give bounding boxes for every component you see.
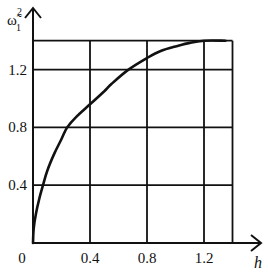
x-tick-label: 1.2	[195, 250, 214, 266]
x-tick-label: 0.4	[81, 250, 100, 266]
x-axis-label: h	[254, 254, 262, 271]
y-tick-label: 1.2	[8, 62, 27, 78]
x-tick-label: 0.8	[138, 250, 157, 266]
y-axis-label: ω̃ 1 2	[7, 6, 22, 33]
tick-labels: 0.40.81.20.40.81.2	[8, 62, 213, 266]
axes	[25, 8, 261, 251]
y-label-sup: 2	[17, 6, 22, 17]
y-tick-label: 0.4	[8, 177, 27, 193]
y-tick-label: 0.8	[8, 119, 27, 135]
origin-label: 0	[18, 250, 26, 266]
data-curve	[33, 41, 225, 243]
grid-lines	[33, 41, 233, 243]
y-label-sub: 1	[16, 22, 21, 33]
chart: 0.40.81.20.40.81.2 0 h ω̃ 1 2	[0, 0, 268, 274]
